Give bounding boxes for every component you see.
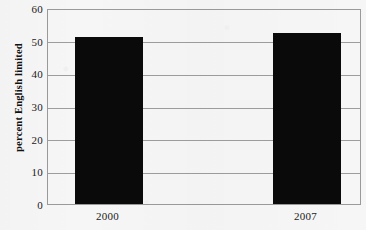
y-axis-tick-labels: 0102030405060: [0, 9, 43, 205]
y-axis-tick-label: 10: [1, 167, 43, 178]
x-axis-tick-label: 2000: [96, 210, 119, 222]
y-axis-tick-label: 30: [1, 102, 43, 113]
y-axis-tick-label: 50: [1, 37, 43, 48]
y-axis-tick-label: 60: [1, 4, 43, 15]
bar-chart: percent English limited 0102030405060 20…: [0, 0, 366, 230]
x-axis-tick-labels: 20002007: [47, 210, 361, 228]
plot-area: [47, 9, 361, 205]
x-axis-tick-label: 2007: [294, 210, 317, 222]
y-axis-tick-label: 20: [1, 135, 43, 146]
y-axis-tick-label: 40: [1, 69, 43, 80]
bar: [75, 37, 143, 204]
bar: [273, 33, 341, 205]
y-axis-tick-label: 0: [1, 200, 43, 211]
